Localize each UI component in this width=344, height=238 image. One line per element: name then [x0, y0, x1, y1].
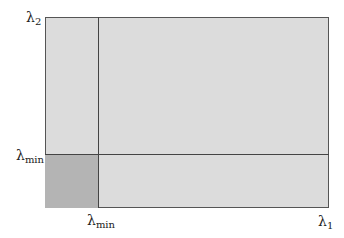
- lambda-min-y-label: λmin: [16, 148, 44, 167]
- lambda-min-x-label: λmin: [87, 213, 115, 232]
- min-eigenvalue-corner-region: [45, 154, 99, 208]
- lambda-1-label: λ1: [318, 214, 333, 233]
- lambda-min-vertical-line: [98, 17, 99, 208]
- lambda-min-horizontal-line: [45, 154, 329, 155]
- lambda-2-label: λ2: [26, 10, 41, 29]
